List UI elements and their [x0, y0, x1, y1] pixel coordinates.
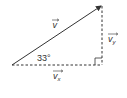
vector-diagram: v vy 33° vx	[0, 0, 127, 98]
vx-label: vx	[53, 70, 63, 82]
svg-text:vy: vy	[108, 34, 117, 45]
angle-label: 33°	[37, 53, 51, 63]
vector-v-label: v	[52, 19, 59, 30]
vy-label: vy	[108, 33, 118, 45]
svg-text:vx: vx	[53, 71, 62, 82]
vector-v-line	[12, 6, 101, 65]
right-angle-marker	[95, 58, 102, 65]
svg-text:v: v	[53, 20, 58, 30]
